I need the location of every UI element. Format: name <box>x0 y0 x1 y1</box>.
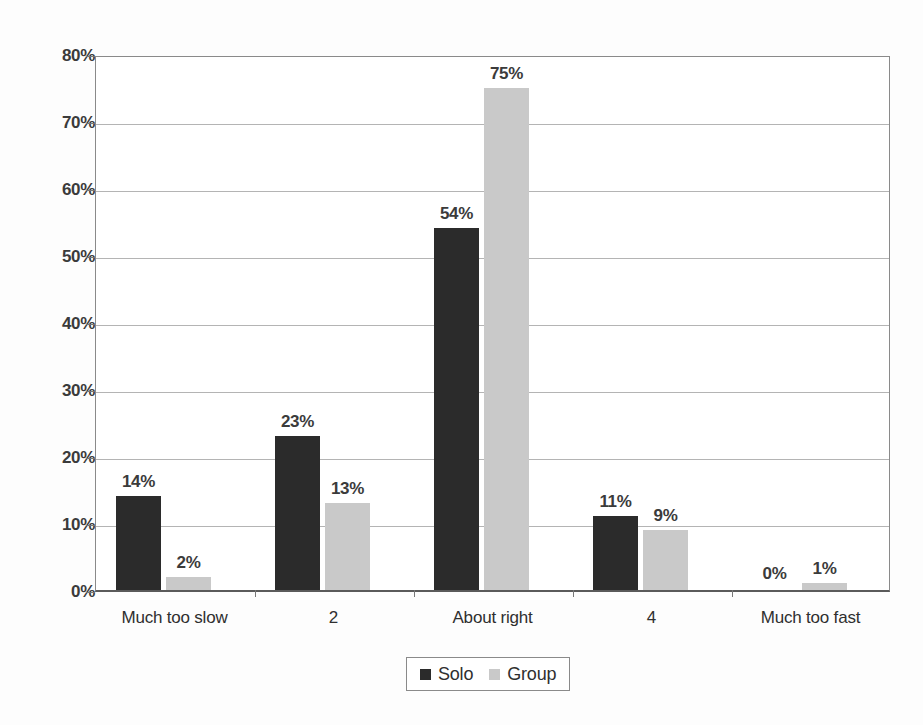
bar-value-label: 1% <box>794 559 855 579</box>
bar-group-1 <box>325 503 370 590</box>
clipped-title-remnant <box>0 0 923 7</box>
y-axis-tick-mark <box>86 56 95 57</box>
bar-value-label: 54% <box>426 204 487 224</box>
x-axis-tick-label: About right <box>452 608 532 628</box>
x-axis-tick-mark <box>732 590 733 597</box>
bar-solo-1 <box>275 436 320 590</box>
legend-entry-group: Group <box>489 664 556 685</box>
x-axis-tick-mark <box>255 590 256 597</box>
legend-label: Solo <box>438 664 473 685</box>
bar-value-label: 23% <box>267 412 328 432</box>
chart-figure: 0%10%20%30%40%50%60%70%80% 14%2%23%13%54… <box>0 0 923 725</box>
legend-swatch-solo-icon <box>420 669 431 680</box>
legend-entry-solo: Solo <box>420 664 473 685</box>
x-axis-tick-mark <box>414 590 415 597</box>
y-axis-tick-mark <box>86 190 95 191</box>
x-axis-tick-label: 2 <box>329 608 338 628</box>
bar-solo-2 <box>434 228 479 590</box>
y-axis-tick-mark <box>86 257 95 258</box>
bar-group-3 <box>643 530 688 590</box>
bar-value-label: 2% <box>158 553 219 573</box>
y-axis-tick-mark <box>86 123 95 124</box>
x-axis-tick-mark <box>573 590 574 597</box>
y-axis-tick-mark <box>86 458 95 459</box>
x-axis-labels: Much too slow2About right4Much too fast <box>95 608 890 638</box>
x-axis-tick-label: 4 <box>647 608 656 628</box>
x-axis-tick-label: Much too slow <box>121 608 227 628</box>
bar-solo-3 <box>593 516 638 590</box>
bar-value-label: 13% <box>317 479 378 499</box>
y-axis-tick-mark <box>86 592 95 593</box>
y-axis-tick-mark <box>86 324 95 325</box>
y-axis-tick-mark <box>86 391 95 392</box>
y-axis-tick-mark <box>86 525 95 526</box>
bar-solo-0 <box>116 496 161 590</box>
x-axis-tick-label: Much too fast <box>761 608 860 628</box>
bar-value-label: 9% <box>635 506 696 526</box>
chart-legend: SoloGroup <box>406 657 570 691</box>
legend-label: Group <box>507 664 556 685</box>
bar-group-2 <box>484 88 529 591</box>
bar-group-0 <box>166 577 211 590</box>
bar-value-label: 75% <box>476 64 537 84</box>
bar-group-4 <box>802 583 847 590</box>
plot-area: 14%2%23%13%54%75%11%9%0%1% <box>95 56 890 592</box>
legend-swatch-group-icon <box>489 669 500 680</box>
y-axis: 0%10%20%30%40%50%60%70%80% <box>0 0 95 725</box>
bar-value-label: 14% <box>108 472 169 492</box>
